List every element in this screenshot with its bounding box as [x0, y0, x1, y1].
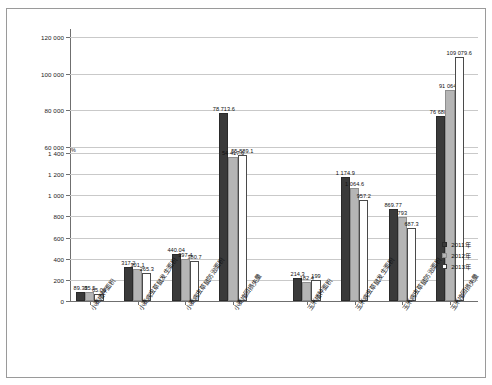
- y-tick-label: 800: [53, 213, 64, 220]
- bar-group: 89.3385.565.09: [76, 29, 104, 301]
- bar-value-label: 78 713.6: [213, 106, 235, 112]
- legend-label: 2012年: [451, 250, 471, 261]
- bar-2012年-玉米病虫草鼠防治面积[interactable]: [398, 217, 407, 301]
- bar-2011年-小麦播种面积[interactable]: [76, 292, 85, 301]
- legend-swatch-icon: [442, 253, 447, 258]
- y-tick-label: 120 000: [41, 34, 64, 41]
- bar-2011年-小麦病虫草鼠发生面积[interactable]: [124, 267, 133, 301]
- bar-value-label: 109 079.6: [447, 50, 472, 56]
- legend-swatch-icon: [442, 264, 447, 269]
- y-tick-label: 60 000: [44, 144, 64, 151]
- bar-value-label: 55 889.1: [231, 148, 253, 154]
- bar-value-label: 380.7: [187, 254, 201, 260]
- legend-item-2011: 2011年: [442, 239, 471, 250]
- chart-root: 02004006008001 0001 2001 40060 00080 000…: [0, 0, 492, 385]
- legend-label: 2011年: [451, 239, 470, 250]
- bar-2011年-玉米播种面积[interactable]: [293, 278, 302, 301]
- bar-value-label: 1 174.9: [336, 170, 355, 176]
- bar-2011年-玉米挽回损失量[interactable]: [436, 116, 445, 301]
- y-tick-label: 200: [53, 276, 64, 283]
- bar-2012年-玉米病虫草鼠发生面积[interactable]: [350, 188, 359, 301]
- bar-group: 214.3182.4199: [293, 29, 321, 301]
- bar-value-label: 869.77: [384, 202, 401, 208]
- bar-value-label: 687.3: [404, 221, 418, 227]
- bar-group: 317.2301.1265.3: [124, 29, 152, 301]
- bar-value-label: 265.3: [140, 266, 154, 272]
- legend-label: 2013年: [451, 261, 471, 272]
- bar-2011年-玉米病虫草鼠防治面积[interactable]: [389, 209, 398, 301]
- bar-2012年-小麦病虫草鼠发生面积[interactable]: [133, 269, 142, 301]
- bar-2012年-小麦挽回损失量[interactable]: [228, 157, 237, 301]
- y-tick-label: 1 200: [48, 171, 64, 178]
- x-axis-line: [70, 301, 478, 302]
- bar-series-container: 89.3385.565.09317.2301.1265.3440.04397.4…: [70, 29, 478, 301]
- bar-value-label: 199: [311, 273, 320, 279]
- legend-item-2013: 2013年: [442, 261, 471, 272]
- y-tick-label: 600: [53, 234, 64, 241]
- bar-2013年-小麦挽回损失量[interactable]: [238, 155, 247, 301]
- y-tick-label: 1 400: [48, 150, 64, 157]
- bar-value-label: 793: [398, 210, 407, 216]
- y-tick-label: 80 000: [44, 107, 64, 114]
- y-tick-label: 400: [53, 255, 64, 262]
- chart-frame: 02004006008001 0001 2001 40060 00080 000…: [6, 8, 486, 378]
- bar-value-label: 957.2: [357, 193, 371, 199]
- legend-swatch-icon: [442, 242, 447, 247]
- chart-legend: 2011年 2012年 2013年: [442, 239, 471, 272]
- bar-2012年-小麦病虫草鼠防治面积[interactable]: [181, 259, 190, 301]
- bar-2011年-玉米病虫草鼠发生面积[interactable]: [341, 177, 350, 301]
- y-tick-label: 1 000: [48, 192, 64, 199]
- y-axis-tick: [66, 301, 70, 302]
- y-tick-label: 100 000: [41, 70, 64, 77]
- plot-area: 02004006008001 0001 2001 40060 00080 000…: [70, 29, 478, 301]
- legend-item-2012: 2012年: [442, 250, 471, 261]
- y-tick-label: 0: [60, 298, 64, 305]
- bar-group: 1 174.91 064.6957.2: [341, 29, 369, 301]
- bar-value-label: 1 064.6: [345, 181, 364, 187]
- bar-2011年-小麦挽回损失量[interactable]: [219, 113, 228, 301]
